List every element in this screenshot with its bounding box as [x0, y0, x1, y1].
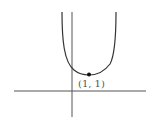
graph-figure: (1, 1): [0, 0, 151, 119]
minimum-point: [87, 73, 91, 77]
point-label: (1, 1): [78, 78, 105, 89]
function-curve: [62, 12, 116, 75]
